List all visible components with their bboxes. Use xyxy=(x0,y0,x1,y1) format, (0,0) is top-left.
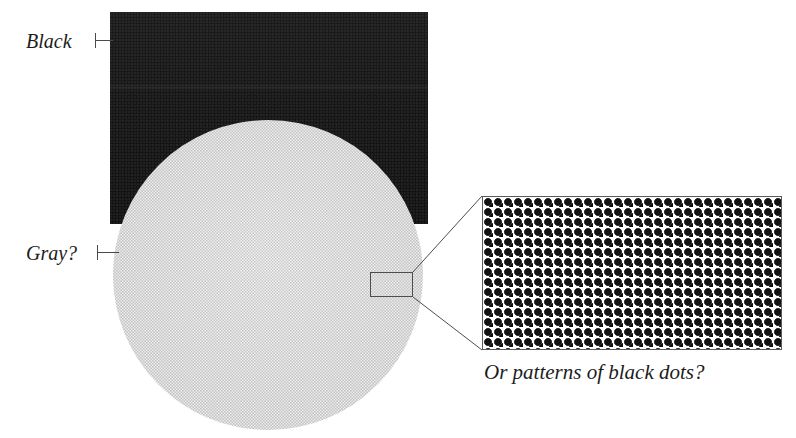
halftone-illustration: Black Gray? Or patterns of black dots? xyxy=(0,0,796,438)
magnified-halftone-panel xyxy=(482,196,782,350)
black-leader-line xyxy=(95,40,113,41)
black-label: Black xyxy=(26,31,72,51)
gray-label: Gray? xyxy=(26,243,77,263)
gray-leader-line xyxy=(97,252,119,253)
figure-caption: Or patterns of black dots? xyxy=(484,362,705,383)
connector-line-lower xyxy=(413,297,482,350)
magnifier-selection-rect xyxy=(370,272,413,297)
